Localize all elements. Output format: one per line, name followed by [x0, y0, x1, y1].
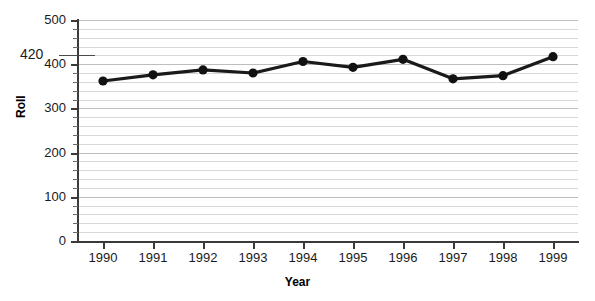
y-tick-minor	[73, 206, 78, 207]
data-point-marker	[248, 68, 257, 77]
y-tick-label: 200	[20, 146, 66, 159]
y-tick-label: 500	[20, 13, 66, 26]
y-tick-major	[71, 64, 78, 66]
y-tick-minor	[73, 29, 78, 30]
x-tick	[353, 243, 355, 249]
y-tick-major	[71, 20, 78, 22]
x-tick	[253, 243, 255, 249]
y-tick-minor	[73, 47, 78, 48]
y-tick-minor	[73, 100, 78, 101]
x-tick	[453, 243, 455, 249]
y-tick-minor	[73, 135, 78, 136]
y-tick-minor	[73, 73, 78, 74]
data-point-marker	[398, 55, 407, 64]
data-point-marker	[298, 57, 307, 66]
y-tick-minor	[73, 38, 78, 39]
y-tick-major	[71, 153, 78, 155]
data-point-marker	[98, 76, 107, 85]
x-tick	[153, 243, 155, 249]
y-axis-title: Roll	[14, 95, 28, 118]
x-tick	[103, 243, 105, 249]
x-tick	[553, 243, 555, 249]
y-tick-minor	[73, 126, 78, 127]
x-tick-label: 1999	[523, 251, 583, 264]
data-point-marker	[348, 63, 357, 72]
data-series-line	[78, 20, 578, 241]
x-tick	[203, 243, 205, 249]
y-tick-minor	[73, 214, 78, 215]
data-point-marker	[498, 71, 507, 80]
y-tick-minor	[73, 223, 78, 224]
data-point-marker	[448, 74, 457, 83]
annotation-420-label: 420	[20, 46, 43, 62]
x-tick	[503, 243, 505, 249]
y-tick-minor	[73, 82, 78, 83]
series-line-roll	[103, 57, 553, 81]
y-tick-minor	[73, 161, 78, 162]
y-tick-major	[71, 108, 78, 110]
x-axis-title: Year	[0, 275, 595, 289]
data-point-marker	[148, 70, 157, 79]
data-point-marker	[198, 65, 207, 74]
chart-canvas: 0100200300400500 19901991199219931994199…	[0, 0, 595, 301]
y-tick-minor	[73, 188, 78, 189]
annotation-420-leader-line	[59, 55, 95, 56]
y-tick-label: 100	[20, 190, 66, 203]
y-tick-minor	[73, 232, 78, 233]
y-tick-minor	[73, 179, 78, 180]
plot-area	[78, 20, 578, 241]
y-tick-minor	[73, 144, 78, 145]
y-tick-minor	[73, 170, 78, 171]
y-tick-major	[71, 197, 78, 199]
x-tick	[403, 243, 405, 249]
clipped-title-text	[0, 0, 595, 3]
y-tick-label: 0	[20, 234, 66, 247]
y-axis-line	[77, 19, 79, 242]
data-point-marker	[548, 52, 557, 61]
y-tick-minor	[73, 117, 78, 118]
x-tick	[303, 243, 305, 249]
y-tick-major	[71, 241, 78, 243]
y-tick-minor	[73, 91, 78, 92]
